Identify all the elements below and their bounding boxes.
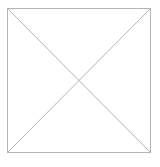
image-placeholder — [0, 0, 160, 167]
image-placeholder-icon — [0, 0, 160, 167]
